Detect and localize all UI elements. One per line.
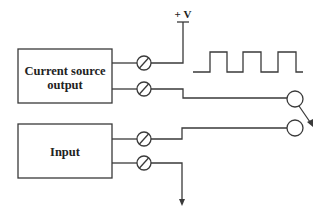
square-wave-icon — [193, 52, 303, 72]
current-source-label-line1: Current source — [24, 64, 106, 78]
switch — [287, 91, 313, 136]
ground-arrow-icon — [179, 199, 185, 206]
terminal-3 — [137, 132, 151, 146]
wires — [112, 22, 287, 200]
circuit-diagram: Current source output Input + V — [0, 0, 327, 219]
input-label: Input — [50, 145, 81, 159]
current-source-label-line2: output — [47, 78, 83, 92]
supply-rail: + V — [175, 8, 192, 22]
current-source-block: Current source output — [18, 49, 112, 103]
terminal-4 — [137, 156, 151, 170]
terminal-2 — [137, 82, 151, 96]
supply-label: + V — [175, 8, 192, 20]
terminal-1 — [137, 56, 151, 70]
input-block: Input — [18, 124, 112, 178]
switch-arrow-icon — [307, 119, 313, 127]
